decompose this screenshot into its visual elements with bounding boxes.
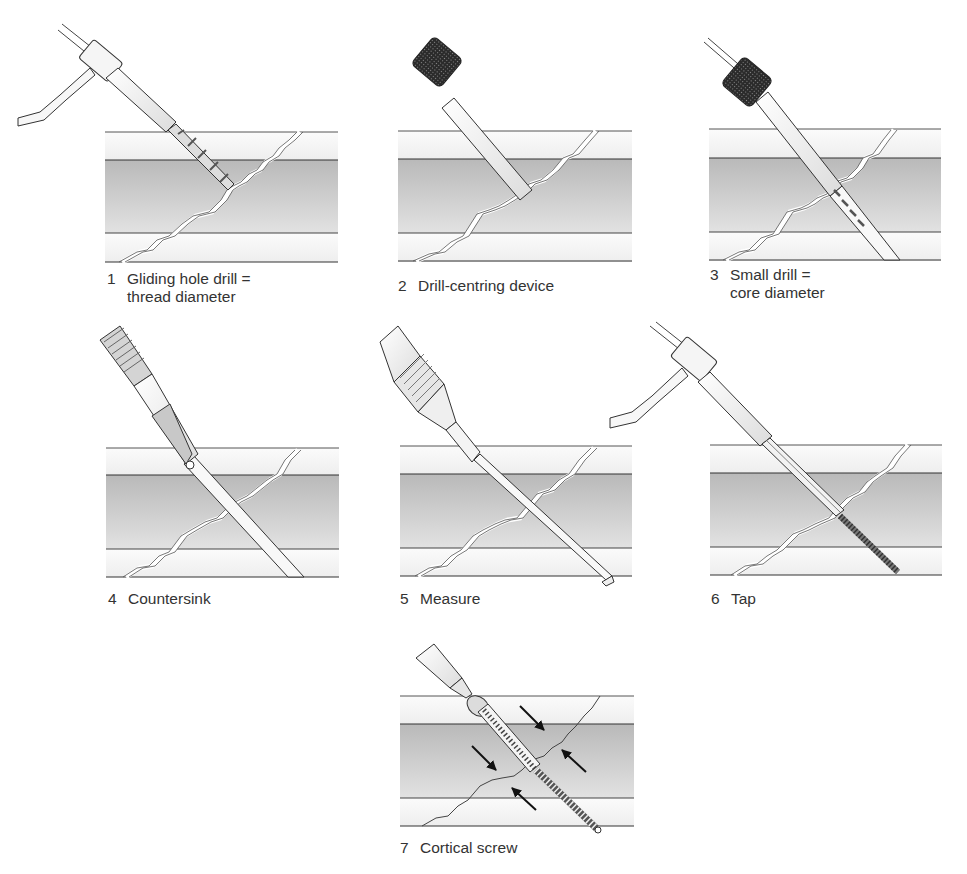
caption-step-4: 4Countersink	[108, 590, 211, 608]
step-number: 7	[400, 839, 420, 857]
illustration-tap	[600, 320, 967, 610]
panel-6-tap: 6Tap	[600, 320, 967, 610]
bone-section	[400, 446, 632, 576]
step-number: 6	[711, 590, 731, 608]
caption-step-6: 6Tap	[711, 590, 756, 608]
caption-step-7: 7Cortical screw	[400, 839, 517, 857]
step-number: 4	[108, 590, 128, 608]
panel-1-gliding-hole-drill: 1Gliding hole drill = thread diameter	[0, 0, 340, 310]
bone-section	[400, 696, 634, 826]
caption-line-1: Measure	[420, 590, 480, 607]
step-number: 1	[107, 270, 127, 288]
step-number: 2	[398, 277, 418, 295]
bone-section	[710, 445, 942, 575]
caption-line-1: Countersink	[128, 590, 211, 607]
illustration-gliding-hole-drill	[0, 0, 340, 310]
caption-step-5: 5Measure	[400, 590, 480, 608]
caption-step-1: 1Gliding hole drill = thread diameter	[107, 270, 251, 306]
panel-2-drill-centring-device: 2Drill-centring device	[380, 0, 660, 310]
caption-line-1: Tap	[731, 590, 756, 607]
panel-7-cortical-screw: 7Cortical screw	[380, 610, 640, 874]
caption-line-1: Drill-centring device	[418, 277, 554, 294]
illustration-drill-centring-device	[380, 0, 660, 310]
panel-3-small-drill: 3Small drill = core diameter	[680, 0, 967, 320]
caption-step-2: 2Drill-centring device	[398, 277, 554, 295]
caption-line-1: Gliding hole drill =	[127, 270, 251, 287]
caption-line-2: thread diameter	[107, 288, 251, 306]
caption-line-1: Cortical screw	[420, 839, 517, 856]
caption-step-3: 3Small drill = core diameter	[710, 266, 825, 302]
illustration-cortical-screw	[380, 610, 640, 874]
caption-line-2: core diameter	[710, 284, 825, 302]
bone-section	[105, 132, 338, 262]
panel-4-countersink: 4Countersink	[90, 320, 390, 610]
illustration-countersink	[90, 320, 390, 610]
step-number: 5	[400, 590, 420, 608]
caption-line-1: Small drill =	[730, 266, 811, 283]
step-number: 3	[710, 266, 730, 284]
